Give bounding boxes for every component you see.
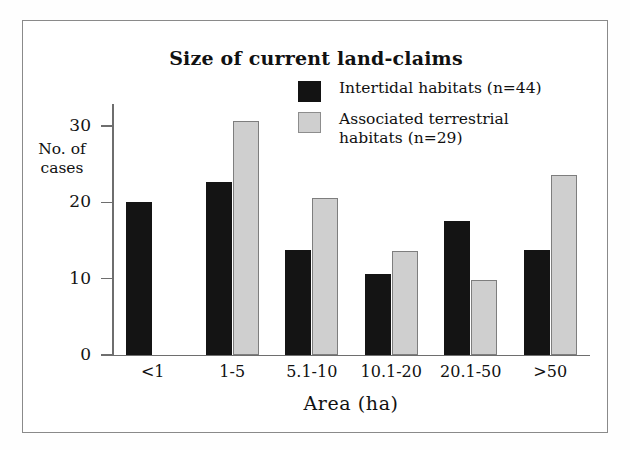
legend-label-terrestrial: Associated terrestrial habitats (n=29) [339, 110, 509, 148]
legend-item-intertidal: Intertidal habitats (n=44) [298, 79, 598, 102]
figure-frame: Size of current land-claims Intertidal h… [22, 20, 608, 433]
figure-page: Size of current land-claims Intertidal h… [0, 0, 630, 450]
black-swatch [298, 81, 321, 102]
chart-title: Size of current land-claims [23, 47, 609, 69]
chart-legend: Intertidal habitats (n=44) Associated te… [298, 79, 598, 156]
legend-label-intertidal: Intertidal habitats (n=44) [339, 79, 542, 98]
legend-item-terrestrial: Associated terrestrial habitats (n=29) [298, 110, 598, 148]
gray-swatch [298, 112, 321, 133]
